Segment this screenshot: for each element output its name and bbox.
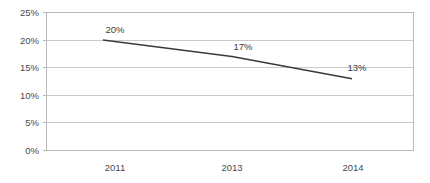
data-label-2014: 13% [347,62,367,73]
data-label-2011: 20% [105,24,125,35]
line-chart: 25% 20% 15% 10% 5% 0% 2011 2013 2014 20%… [0,0,430,183]
y-axis-labels: 25% 20% 15% 10% 5% 0% [20,7,40,156]
y-axis-label-0: 0% [25,145,39,156]
x-axis-label-2011: 2011 [105,162,125,173]
plot-background [47,13,414,151]
chart-canvas: 25% 20% 15% 10% 5% 0% 2011 2013 2014 20%… [0,0,430,183]
data-label-2013: 17% [233,41,253,52]
x-axis-label-2013: 2013 [221,162,242,173]
y-axis-label-15: 15% [20,62,40,73]
y-axis-tickmarks [43,13,47,151]
y-axis-label-10: 10% [20,90,40,101]
y-axis-label-5: 5% [25,117,39,128]
x-axis-labels: 2011 2013 2014 [105,162,364,173]
y-axis-label-20: 20% [20,35,40,46]
x-axis-label-2014: 2014 [342,162,363,173]
y-axis-label-25: 25% [20,7,40,18]
